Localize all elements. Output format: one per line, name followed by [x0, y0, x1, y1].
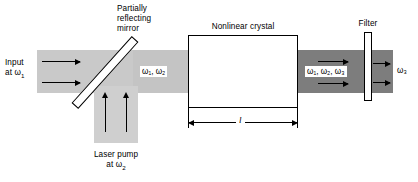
dimension-label-length-text: l: [239, 115, 242, 125]
crystal-label-text: Nonlinear crystal: [212, 22, 275, 31]
filtered-arrow-bottom: [373, 82, 390, 83]
crystal-label: Nonlinear crystal: [188, 22, 298, 32]
beam-tag-after-crystal-text: ω₁, ω₂, ω₃: [307, 67, 345, 76]
input-label-omega-sub: 1: [21, 72, 25, 79]
figure-canvas: ω₁, ω₂ ω₁, ω₂, ω₃ ω₃ Input at ω1 Partial…: [0, 0, 418, 182]
beam-tag-after-filter-text: ω₃: [397, 66, 407, 75]
beam-tag-after-filter: ω₃: [397, 66, 407, 75]
mirror-label-line3: mirror: [117, 24, 151, 34]
input-label-line1: Input: [5, 58, 24, 68]
pump-arrow-left: [105, 98, 106, 132]
filter-label-text: Filter: [359, 19, 378, 28]
input-label: Input at ω1: [5, 58, 24, 78]
pump-label-omega-sub: 2: [122, 164, 126, 171]
beam-tag-after-mirror-text: ω₁, ω₂: [142, 67, 165, 76]
input-arrow-bottom: [42, 82, 80, 83]
pump-label-line2: at ω2: [74, 160, 158, 170]
output-arrow-top: [318, 61, 348, 62]
dimension-label-length: l: [236, 115, 245, 125]
mirror-label: Partially reflecting mirror: [117, 4, 151, 35]
input-label-line2: at ω1: [5, 68, 24, 78]
pump-label-line1: Laser pump: [74, 150, 158, 160]
filtered-beam-band: [371, 50, 393, 93]
beam-tag-after-crystal: ω₁, ω₂, ω₃: [305, 66, 347, 77]
beam-tag-after-mirror: ω₁, ω₂: [140, 66, 167, 77]
mirror-label-line2: reflecting: [117, 14, 151, 24]
input-arrow-top: [42, 61, 80, 62]
pump-label-at: at: [106, 160, 115, 169]
pump-label: Laser pump at ω2: [74, 150, 158, 170]
filtered-arrow-top: [373, 63, 390, 64]
filter-bar: [364, 32, 372, 101]
pump-arrow-right: [126, 98, 127, 132]
nonlinear-crystal-box: [188, 35, 298, 108]
output-arrow-bottom: [318, 83, 348, 84]
pump-beam-band: [94, 86, 138, 143]
mirror-label-line1: Partially: [117, 4, 151, 14]
input-label-at: at: [5, 68, 14, 77]
filter-label: Filter: [343, 19, 393, 29]
